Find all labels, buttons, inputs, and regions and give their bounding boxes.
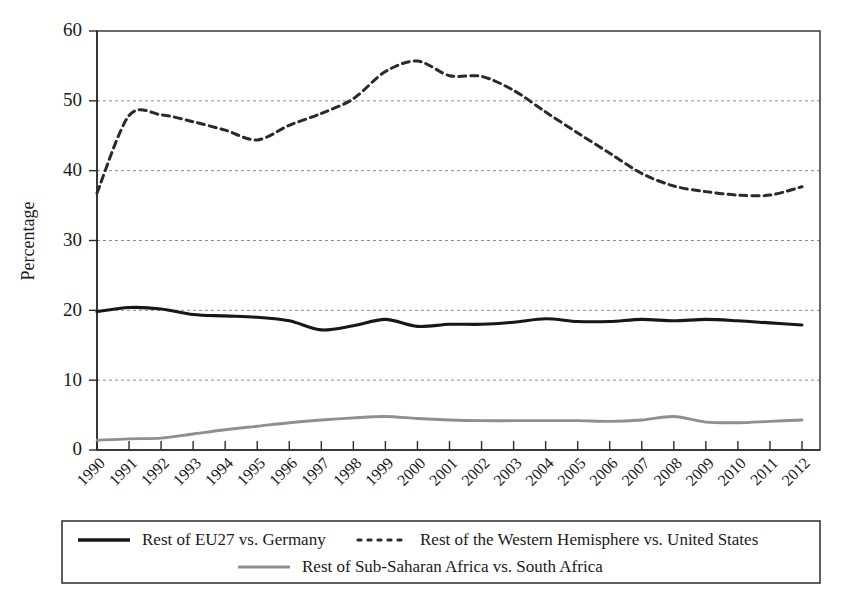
x-tick-label: 2001 <box>426 454 461 489</box>
x-tick-label: 1998 <box>330 454 365 489</box>
y-tick-label: 30 <box>63 229 82 250</box>
y-tick-label: 20 <box>63 299 82 320</box>
x-tick-label: 1992 <box>138 454 173 489</box>
x-tick-label: 1994 <box>202 454 237 489</box>
x-tick-label: 2002 <box>458 454 493 489</box>
x-tick-label: 2011 <box>747 454 781 488</box>
x-tick-label: 2008 <box>650 454 685 489</box>
x-tick-label: 2000 <box>394 454 429 489</box>
x-tick-label: 2006 <box>586 454 621 489</box>
grid-layer <box>97 101 820 380</box>
y-tick-label: 50 <box>63 89 82 110</box>
legend-label: Rest of the Western Hemisphere vs. Unite… <box>420 530 758 549</box>
line-chart-svg: 0102030405060 Percentage 199019911992199… <box>0 0 863 602</box>
x-tick-label: 2010 <box>714 454 749 489</box>
series-line-3 <box>97 416 802 440</box>
x-tick-label: 2012 <box>778 454 813 489</box>
x-tick-label: 2003 <box>490 454 525 489</box>
x-tick-label: 1995 <box>234 454 269 489</box>
x-axis: 1990199119921993199419951996199719981999… <box>73 441 820 489</box>
x-tick-label: 1993 <box>170 454 205 489</box>
y-tick-label: 60 <box>63 19 82 40</box>
y-tick-label: 40 <box>63 159 82 180</box>
x-tick-label: 1999 <box>362 454 397 489</box>
x-tick-label: 2007 <box>618 454 653 489</box>
x-tick-label: 2005 <box>554 454 589 489</box>
x-tick-label: 1996 <box>266 454 301 489</box>
series-layer <box>97 61 802 440</box>
x-tick-label: 2004 <box>522 454 557 489</box>
x-tick-label: 1997 <box>298 454 333 489</box>
chart-figure: 0102030405060 Percentage 199019911992199… <box>0 0 863 602</box>
legend-label: Rest of EU27 vs. Germany <box>142 530 326 549</box>
x-tick-label: 1991 <box>106 454 141 489</box>
series-line-1 <box>97 307 802 330</box>
series-line-2 <box>97 61 802 196</box>
legend-label: Rest of Sub-Saharan Africa vs. South Afr… <box>302 557 603 576</box>
x-tick-label: 2009 <box>682 454 717 489</box>
y-axis-title: Percentage <box>18 202 38 281</box>
chart-legend: Rest of EU27 vs. GermanyRest of the West… <box>62 521 820 583</box>
y-tick-label: 10 <box>63 369 82 390</box>
y-axis: 0102030405060 Percentage <box>18 19 98 459</box>
y-tick-label: 0 <box>73 438 83 459</box>
